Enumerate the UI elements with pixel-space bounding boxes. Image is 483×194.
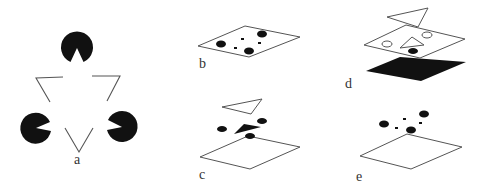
- panel-c: [200, 99, 300, 169]
- panel-a: [20, 31, 137, 152]
- pacman-top-icon: [61, 31, 93, 62]
- plane-white: [360, 134, 462, 169]
- black-triangle: [234, 124, 261, 134]
- panel-label-e: e: [356, 170, 362, 184]
- pacman-right-icon: [107, 111, 138, 142]
- panel-label-c: c: [199, 168, 205, 182]
- panel-d: [364, 8, 466, 81]
- outline-triangle: [222, 99, 262, 114]
- outline-triangle-fragments: [36, 76, 120, 152]
- pacman-left-icon: [20, 113, 51, 144]
- outline-triangle: [387, 8, 428, 27]
- plane-black: [366, 57, 466, 81]
- panel-label-d: d: [345, 77, 352, 91]
- panel-label-b: b: [199, 57, 206, 71]
- panel-b: [198, 26, 300, 57]
- panel-e: [360, 111, 462, 170]
- panel-label-a: a: [74, 153, 80, 167]
- plane-white: [200, 136, 300, 169]
- kanizsa-figure: [0, 0, 483, 194]
